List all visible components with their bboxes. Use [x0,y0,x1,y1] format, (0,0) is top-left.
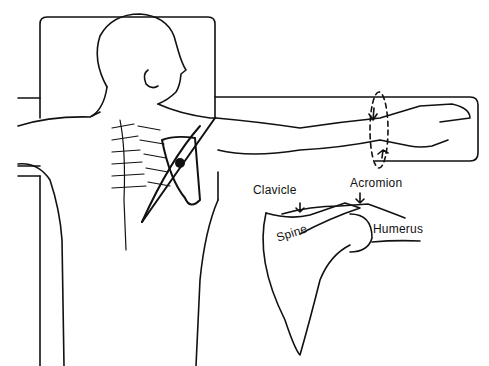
table [18,17,478,366]
arm [216,104,470,154]
illustration [0,0,489,366]
scapula-outline [142,118,215,222]
label-acromion: Acromion [350,176,402,190]
label-humerus: Humerus [373,222,423,236]
trigger-point [175,158,185,168]
label-clavicle: Clavicle [253,183,297,197]
torso [18,104,218,366]
inset-scapula [263,193,420,355]
rotation-arrows [369,92,388,168]
head [92,14,186,116]
